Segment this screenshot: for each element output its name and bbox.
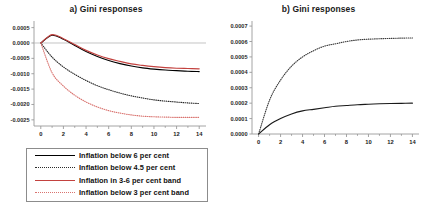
- legend-item: Inflation below 4.5 per cent: [27, 162, 207, 175]
- svg-text:0.0000: 0.0000: [230, 131, 247, 137]
- svg-text:2: 2: [62, 131, 65, 137]
- svg-text:-0.0025: -0.0025: [11, 117, 30, 123]
- chart-b-svg: 0.00070.00060.00050.00040.00030.00020.00…: [212, 18, 425, 148]
- legend-item-label: Inflation in 3-6 per cent band: [79, 176, 181, 185]
- svg-text:0.0003: 0.0003: [230, 85, 247, 91]
- svg-text:6: 6: [323, 139, 327, 145]
- svg-text:0.0004: 0.0004: [230, 69, 248, 75]
- svg-text:0.0002: 0.0002: [230, 100, 247, 106]
- svg-text:4: 4: [84, 131, 88, 137]
- chart-b-title: b) Gini responses: [212, 4, 425, 14]
- chart-a-title: a) Gini responses: [0, 4, 212, 14]
- svg-text:0.0001: 0.0001: [230, 116, 247, 122]
- svg-text:4: 4: [301, 139, 305, 145]
- legend-item: Inflation below 3 per cent band: [27, 187, 207, 200]
- svg-text:10: 10: [365, 139, 371, 145]
- svg-text:12: 12: [173, 131, 179, 137]
- gini-responses-figure: a) Gini responses 0.00050.0000-0.0005-0.…: [0, 0, 425, 211]
- svg-text:0.0005: 0.0005: [230, 54, 247, 60]
- svg-text:0: 0: [39, 131, 42, 137]
- legend-item: Inflation below 6 per cent: [27, 149, 207, 162]
- legend-key-icon: [31, 167, 79, 168]
- svg-text:14: 14: [409, 139, 416, 145]
- svg-text:14: 14: [196, 131, 203, 137]
- legend-item-label: Inflation below 6 per cent: [79, 151, 169, 160]
- svg-text:8: 8: [345, 139, 349, 145]
- chart-a-svg: 0.00050.0000-0.0005-0.0010-0.0015-0.0020…: [0, 18, 212, 140]
- legend-item-label: Inflation below 4.5 per cent: [79, 163, 175, 172]
- chart-b-plot-area: 0.00070.00060.00050.00040.00030.00020.00…: [212, 18, 425, 148]
- svg-text:2: 2: [279, 139, 282, 145]
- svg-text:-0.0005: -0.0005: [11, 55, 30, 61]
- svg-text:6: 6: [107, 131, 111, 137]
- svg-text:-0.0015: -0.0015: [11, 86, 30, 92]
- svg-text:0.0006: 0.0006: [230, 39, 247, 45]
- legend-item-label: Inflation below 3 per cent band: [79, 188, 189, 197]
- svg-text:-0.0010: -0.0010: [11, 71, 30, 77]
- svg-text:0: 0: [257, 139, 260, 145]
- svg-text:-0.0020: -0.0020: [11, 101, 30, 107]
- legend-item: Inflation in 3-6 per cent band: [27, 174, 207, 187]
- svg-text:0.0007: 0.0007: [230, 23, 247, 29]
- svg-text:0.0000: 0.0000: [12, 40, 29, 46]
- svg-text:0.0005: 0.0005: [12, 25, 29, 31]
- legend-key-icon: [31, 180, 79, 181]
- chart-panel-b: b) Gini responses 0.00070.00060.00050.00…: [212, 0, 425, 211]
- legend-key-icon: [31, 155, 79, 156]
- legend-key-icon: [31, 192, 79, 193]
- chart-panel-a: a) Gini responses 0.00050.0000-0.0005-0.…: [0, 0, 212, 211]
- svg-text:12: 12: [387, 139, 393, 145]
- svg-text:8: 8: [130, 131, 134, 137]
- svg-text:10: 10: [151, 131, 157, 137]
- chart-a-plot-area: 0.00050.0000-0.0005-0.0010-0.0015-0.0020…: [0, 18, 212, 140]
- chart-a-legend: Inflation below 6 per cent Inflation bel…: [26, 148, 208, 202]
